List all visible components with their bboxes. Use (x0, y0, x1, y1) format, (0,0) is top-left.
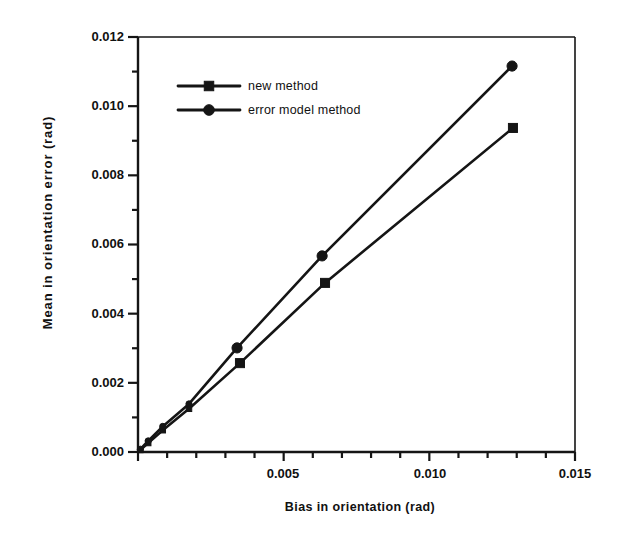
data-point-square (204, 81, 213, 90)
data-point-square (321, 278, 330, 287)
legend-entry-error-model-method (178, 105, 240, 116)
data-series-new-method (138, 123, 518, 452)
data-point-circle (204, 105, 215, 116)
series-line (140, 128, 513, 450)
data-point-square (235, 359, 244, 368)
axis-frame (138, 37, 575, 452)
data-point-circle (137, 446, 143, 452)
data-series-layer (137, 61, 517, 453)
chart-figure: Mean in orientation error (rad) Bias in … (0, 0, 631, 541)
data-point-circle (145, 438, 151, 444)
data-point-circle (186, 401, 192, 407)
data-series-error-model-method (137, 61, 517, 452)
data-point-circle (232, 343, 242, 353)
legend-entry-new-method (178, 81, 240, 90)
legend-glyphs (178, 81, 240, 115)
data-point-circle (507, 61, 517, 71)
data-point-square (508, 123, 517, 132)
plot-area (0, 0, 631, 541)
data-point-circle (317, 251, 327, 261)
data-point-circle (160, 423, 166, 429)
